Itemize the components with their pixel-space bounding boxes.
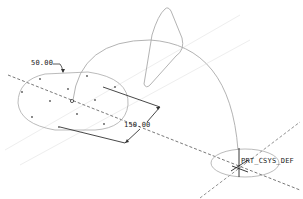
dim-radius-label[interactable]: 50.00: [31, 60, 53, 67]
section-profile[interactable]: [144, 8, 183, 87]
sketch-points: [21, 75, 116, 128]
dim-arrow-icon: [156, 107, 160, 110]
reference-planes: [5, 15, 250, 165]
dim-arrow-icon: [61, 69, 65, 73]
sketch-canvas[interactable]: [0, 0, 303, 199]
dim-radius-leader[interactable]: [53, 64, 63, 72]
sweep-trajectory[interactable]: [73, 40, 238, 150]
dim-length-label[interactable]: 150.00: [124, 122, 151, 129]
csys-label[interactable]: PRT_CSYS_DEF: [241, 158, 294, 165]
cad-viewport[interactable]: 50.00 150.00 PRT_CSYS_DEF: [0, 0, 303, 199]
